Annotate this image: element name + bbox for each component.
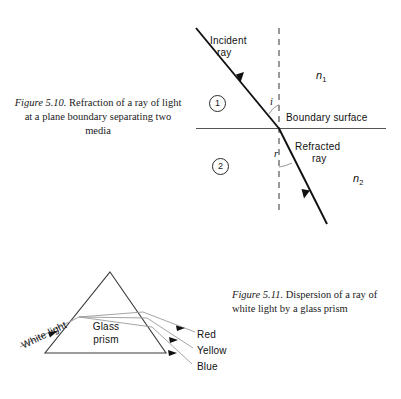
medium-two-circle: 2 [212,158,229,175]
refractive-index-two-label: n2 [353,172,364,187]
figure-page: Incident ray Refracted ray Boundary surf… [0,0,401,399]
refracted-ray-label-line2: ray [312,153,327,164]
figure-511-caption: Figure 5.11. Dispersion of a ray of whit… [232,288,392,316]
blue-label: Blue [197,361,218,372]
emergent-ray-yellow [147,318,193,348]
figure-511-number: Figure 5.11. [232,289,283,300]
blue-ray-arrowhead [168,350,177,356]
figure-510-number: Figure 5.10. [15,97,67,108]
refractive-index-two-subscript: 2 [359,178,363,187]
internal-ray-red [79,312,143,317]
emergent-ray-blue [152,327,192,364]
angle-of-incidence-label: i [270,96,273,107]
incident-ray-label-line2: ray [217,47,232,58]
angle-of-refraction-arc [279,163,292,167]
red-label: Red [197,329,216,340]
glass-prism-label-line1: Glass [80,321,132,332]
yellow-label: Yellow [197,345,227,356]
white-light-label: White light [20,319,69,350]
refracted-ray-arrowhead [302,189,311,199]
boundary-surface-label: Boundary surface [286,112,368,123]
figure-510-caption: Figure 5.10. Refraction of a ray of ligh… [14,96,182,138]
refractive-index-one-subscript: 1 [322,75,326,84]
incident-ray-label-line1: Incident [210,35,247,46]
angle-of-refraction-label: r [274,148,278,159]
medium-one-circle: 1 [209,95,226,112]
incident-ray-arrowhead [236,72,244,83]
emergent-ray-red [143,312,195,332]
red-ray-arrowhead [176,326,185,332]
glass-prism-label-line2: prism [80,334,132,345]
refractive-index-one-label: n1 [316,69,327,84]
refracted-ray-label-line1: Refracted [295,141,340,152]
internal-ray-yellow [79,317,147,318]
yellow-ray-arrowhead [169,337,178,343]
